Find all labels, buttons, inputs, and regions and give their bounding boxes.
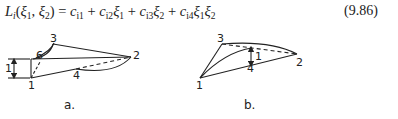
figure-caption-a: a. <box>64 98 75 112</box>
node-label-1: 1 <box>28 79 35 92</box>
node-label-6: 6 <box>36 49 43 62</box>
edge-6-2 <box>31 57 131 59</box>
node-label-4: 4 <box>247 62 254 75</box>
node-label-4: 4 <box>73 69 80 82</box>
node-label-1: 1 <box>196 79 203 92</box>
dimension-label: 1 <box>255 50 262 63</box>
figure-bilinear-element-shapes: 1 3 6 2 4 1 a. 3 1 2 4 1 b. <box>0 0 398 119</box>
figure-b-labels: 3 1 2 4 1 b. <box>196 32 303 112</box>
node-label-2: 2 <box>133 49 140 62</box>
curve-1-mid <box>200 48 252 78</box>
figure-a-labels: 1 3 6 2 4 1 a. <box>5 32 140 112</box>
node-label-3: 3 <box>217 32 224 45</box>
node-label-2: 2 <box>296 56 303 69</box>
edge-1-4 <box>31 69 76 78</box>
curve-4-2 <box>76 57 131 71</box>
dashed-4-2 <box>76 57 131 69</box>
node-label-3: 3 <box>50 32 57 45</box>
figure-a <box>8 43 131 78</box>
dimension-label: 1 <box>5 62 12 75</box>
dashed-1-6 <box>31 62 40 78</box>
figure-caption-b: b. <box>244 98 255 112</box>
edge-3-2 <box>53 44 131 57</box>
